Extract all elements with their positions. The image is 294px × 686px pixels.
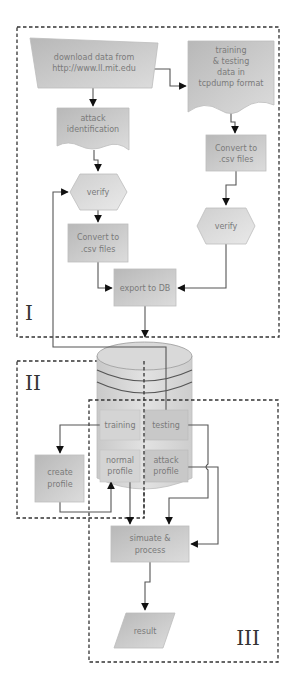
node-create-profile-line-1: create	[47, 468, 72, 477]
node-export-db: export to DB	[114, 269, 176, 306]
node-attack-profile-line-2: profile	[153, 467, 178, 476]
node-verify-right-label: verify	[215, 222, 238, 231]
node-training: training	[100, 410, 140, 440]
region-iii-label: III	[236, 626, 260, 650]
node-download-data-line-1: download data from	[54, 53, 135, 62]
node-attack-id-line-2: identification	[67, 125, 119, 134]
node-tcpdump-line-4: tcpdump format	[199, 79, 264, 88]
region-i-label: I	[25, 301, 33, 325]
flowchart-canvas: download data from http://www.ll.mit.edu…	[0, 0, 294, 686]
node-normal-profile-line-1: normal	[106, 456, 134, 465]
node-testing-label: testing	[152, 421, 180, 430]
node-simulate-line-2: process	[135, 546, 166, 555]
node-training-label: training	[105, 421, 136, 430]
node-simulate-line-1: simuate &	[130, 534, 171, 543]
node-convert-right-line-2: .csv files	[219, 155, 254, 164]
node-normal-profile-line-2: profile	[107, 467, 132, 476]
node-convert-right-line-1: Convert to	[215, 144, 257, 153]
node-convert-left-line-2: .csv files	[81, 245, 116, 254]
node-result: result	[114, 613, 175, 648]
node-result-label: result	[134, 627, 157, 636]
node-testing: testing	[145, 410, 188, 440]
node-attack-profile-line-1: attack	[153, 456, 178, 465]
node-attack-id-line-1: attack	[80, 114, 105, 123]
node-convert-left: Convert to .csv files	[68, 224, 128, 262]
node-download-data: download data from http://www.ll.mit.edu	[30, 38, 158, 88]
node-export-db-label: export to DB	[120, 284, 171, 293]
node-tcpdump-line-2: & testing	[213, 57, 250, 66]
node-attack-profile: attack profile	[145, 450, 188, 482]
node-tcpdump-line-1: training	[216, 46, 247, 55]
node-attack-identification: attack identification	[57, 108, 129, 150]
node-create-profile: create profile	[35, 455, 84, 502]
node-create-profile-line-2: profile	[47, 480, 72, 489]
node-simulate-process: simuate & process	[111, 526, 189, 562]
node-verify-right: verify	[197, 208, 255, 244]
node-normal-profile: normal profile	[100, 450, 140, 482]
node-convert-right: Convert to .csv files	[206, 135, 266, 171]
node-convert-left-line-1: Convert to	[77, 233, 119, 242]
node-tcpdump-data: training & testing data in tcpdump forma…	[188, 41, 274, 114]
node-download-data-line-2: http://www.ll.mit.edu	[52, 64, 136, 73]
region-ii-label: II	[25, 371, 41, 395]
node-tcpdump-line-3: data in	[217, 68, 245, 77]
node-verify-left-label: verify	[87, 188, 110, 197]
node-verify-left: verify	[70, 174, 127, 210]
